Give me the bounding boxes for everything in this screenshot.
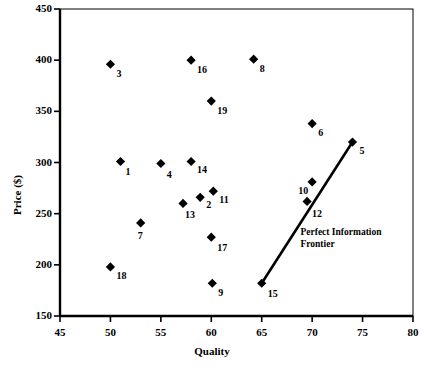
- y-axis-tick-label: 150: [14, 310, 52, 321]
- data-point-marker[interactable]: [106, 262, 115, 271]
- data-point-marker[interactable]: [308, 119, 317, 128]
- data-point-label: 10: [298, 186, 308, 196]
- data-point-marker[interactable]: [156, 159, 165, 168]
- data-point-marker[interactable]: [208, 279, 217, 288]
- data-point-label: 13: [185, 210, 195, 220]
- y-axis-tick-label: 400: [14, 54, 52, 65]
- data-point-label: 3: [116, 69, 121, 79]
- x-axis-tick-label: 55: [141, 327, 181, 338]
- data-point-label: 5: [359, 146, 364, 156]
- data-point-label: 9: [218, 288, 223, 298]
- data-point-marker[interactable]: [116, 157, 125, 166]
- x-axis-tick-label: 60: [191, 327, 231, 338]
- data-point-marker[interactable]: [196, 193, 205, 202]
- y-axis-tick-label: 350: [14, 105, 52, 116]
- scatter-chart: 1502002503003504004504550556065707580Qua…: [0, 0, 424, 377]
- x-axis-tick-label: 50: [90, 327, 130, 338]
- data-point-marker[interactable]: [207, 233, 216, 242]
- data-point-label: 17: [217, 243, 227, 253]
- plot-canvas: [0, 0, 424, 377]
- y-axis-title: Price ($): [12, 175, 23, 215]
- data-point-label: 12: [312, 209, 322, 219]
- data-point-label: 6: [318, 128, 323, 138]
- data-point-label: 4: [167, 170, 172, 180]
- data-point-marker[interactable]: [106, 60, 115, 69]
- data-point-marker[interactable]: [207, 97, 216, 106]
- data-point-label: 19: [217, 106, 227, 116]
- data-point-label: 14: [197, 165, 207, 175]
- perfect-information-frontier-line: [262, 142, 353, 283]
- data-point-label: 2: [206, 200, 211, 210]
- data-point-label: 11: [219, 195, 228, 205]
- data-point-marker[interactable]: [178, 199, 187, 208]
- data-point-label: 15: [268, 289, 278, 299]
- data-point-label: 8: [260, 64, 265, 74]
- x-axis-tick-label: 65: [242, 327, 282, 338]
- data-point-label: 1: [126, 167, 131, 177]
- x-axis-tick-label: 75: [343, 327, 383, 338]
- data-point-label: 16: [197, 65, 207, 75]
- data-point-marker[interactable]: [187, 56, 196, 65]
- x-axis-tick-label: 45: [40, 327, 80, 338]
- frontier-annotation-line: Frontier: [300, 239, 381, 251]
- y-axis-tick-label: 450: [14, 3, 52, 14]
- x-axis-tick-label: 70: [292, 327, 332, 338]
- frontier-annotation: Perfect InformationFrontier: [300, 227, 381, 251]
- data-point-label: 7: [138, 231, 143, 241]
- data-point-marker[interactable]: [209, 187, 218, 196]
- frontier-annotation-line: Perfect Information: [300, 227, 381, 239]
- data-point-marker[interactable]: [303, 197, 312, 206]
- x-axis-tick-label: 80: [393, 327, 424, 338]
- data-point-marker[interactable]: [187, 157, 196, 166]
- data-point-label: 18: [116, 271, 126, 281]
- data-point-marker[interactable]: [249, 55, 258, 64]
- data-point-marker[interactable]: [308, 177, 317, 186]
- data-point-marker[interactable]: [136, 218, 145, 227]
- y-axis-tick-label: 300: [14, 157, 52, 168]
- x-axis-title: Quality: [0, 346, 424, 357]
- plot-frame: [60, 9, 413, 316]
- y-axis-tick-label: 200: [14, 259, 52, 270]
